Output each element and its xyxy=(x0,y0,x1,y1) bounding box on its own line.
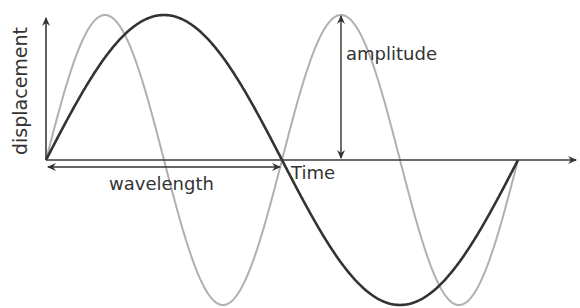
amplitude-label: amplitude xyxy=(346,43,437,64)
y-axis-label: displacement xyxy=(9,27,31,155)
wavelength-label: wavelength xyxy=(109,173,214,194)
x-axis-label: Time xyxy=(290,162,335,183)
wave-diagram: displacement Time amplitude wavelength xyxy=(0,0,580,308)
